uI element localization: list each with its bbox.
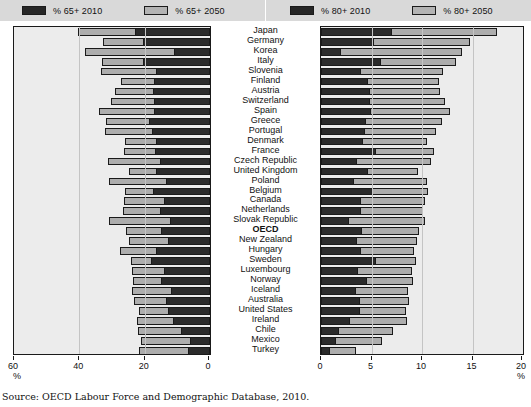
bar-segment-2050 [134, 297, 166, 305]
bar-sweden [321, 257, 416, 265]
bar-segment-2010 [156, 247, 210, 255]
bar-new-zealand [129, 237, 210, 245]
bar-segment-2050 [129, 237, 167, 245]
bar-segment-2010 [160, 207, 210, 215]
bar-segment-2050 [129, 168, 156, 176]
bar-segment-2010 [161, 227, 210, 235]
bar-segment-2010 [321, 28, 391, 36]
bar-segment-2050 [125, 188, 153, 196]
bar-luxembourg [132, 267, 210, 275]
bar-segment-2010 [321, 237, 356, 245]
bar-segment-2050 [101, 68, 156, 76]
x-axis-65plus: 6040200 [13, 356, 211, 378]
bar-united-states [321, 307, 406, 315]
bar-segment-2050 [369, 98, 445, 106]
bar-row [14, 276, 210, 286]
legend-entry-80-2050: % 80+ 2050 [412, 6, 492, 16]
axis-tick [320, 356, 321, 360]
bar-segment-2050 [367, 168, 418, 176]
bar-segment-2050 [369, 88, 440, 96]
bar-segment-2050 [125, 138, 156, 146]
bar-belgium [321, 188, 428, 196]
bar-segment-2050 [367, 78, 439, 86]
bar-segment-2010 [143, 58, 210, 66]
bar-segment-2050 [359, 307, 405, 315]
bar-belgium [125, 188, 210, 196]
bar-segment-2050 [366, 277, 412, 285]
bar-segment-2050 [132, 287, 171, 295]
axis-tick-label: 10 [416, 361, 426, 371]
bar-row [14, 157, 210, 167]
bar-segment-2050 [360, 197, 425, 205]
bar-segment-2010 [166, 178, 210, 186]
bar-segment-2050 [355, 287, 408, 295]
bar-austria [115, 88, 210, 96]
bar-france [321, 148, 434, 156]
bar-segment-2010 [164, 267, 210, 275]
bar-segment-2050 [141, 337, 189, 345]
bar-segment-2050 [340, 48, 462, 56]
gridline [422, 27, 423, 354]
bar-row [14, 286, 210, 296]
gridline [145, 27, 146, 354]
bar-united-kingdom [129, 168, 210, 176]
bar-segment-2010 [321, 78, 367, 86]
bar-sweden [131, 257, 210, 265]
bar-canada [321, 197, 425, 205]
legend-65plus: % 65+ 2010 % 65+ 2050 [0, 0, 265, 21]
axis-tick [144, 356, 145, 360]
bar-slovak-republic [109, 217, 210, 225]
bar-row [14, 296, 210, 306]
bar-segment-2010 [321, 277, 366, 285]
bar-luxembourg [321, 267, 412, 275]
bar-united-states [139, 307, 210, 315]
bar-segment-2050 [353, 178, 427, 186]
bar-row [14, 137, 210, 147]
bar-denmark [125, 138, 210, 146]
bar-segment-2010 [168, 237, 210, 245]
bar-segment-2010 [164, 197, 210, 205]
bar-row [14, 117, 210, 127]
bar-segment-2010 [321, 168, 367, 176]
legend-label-65-2010: % 65+ 2010 [53, 6, 102, 16]
bar-segment-2050 [103, 38, 143, 46]
bar-row [14, 27, 210, 37]
bar-segment-2050 [359, 297, 408, 305]
bar-segment-2050 [123, 207, 159, 215]
bar-segment-2010 [321, 297, 359, 305]
axis-tick-label: 40 [73, 361, 83, 371]
bar-iceland [321, 287, 408, 295]
bar-hungary [120, 247, 210, 255]
bar-segment-2010 [321, 68, 360, 76]
bar-row [14, 97, 210, 107]
bar-segment-2050 [335, 337, 381, 345]
x-axis-unit-65plus: % [13, 371, 21, 381]
legend-swatch-light-icon [144, 6, 168, 15]
bar-segment-2010 [135, 28, 210, 36]
bar-row [14, 167, 210, 177]
bar-switzerland [111, 98, 210, 106]
bar-segment-2010 [321, 108, 370, 116]
bar-row [14, 127, 210, 137]
bar-poland [109, 178, 210, 186]
bar-segment-2010 [190, 337, 210, 345]
bar-oecd [321, 227, 419, 235]
bar-segment-2010 [168, 307, 210, 315]
bar-segment-2010 [321, 197, 360, 205]
axis-tick-label: 0 [205, 361, 210, 371]
bar-portugal [321, 128, 436, 136]
bar-segment-2050 [364, 128, 436, 136]
bar-segment-2010 [321, 138, 362, 146]
bar-segment-2010 [156, 138, 210, 146]
bar-segment-2050 [338, 327, 393, 335]
bar-segment-2010 [154, 108, 210, 116]
bar-segment-2010 [181, 327, 210, 335]
bar-segment-2010 [321, 148, 375, 156]
bar-row [14, 256, 210, 266]
axis-tick [472, 356, 473, 360]
bar-rows-65plus [14, 27, 210, 354]
bar-segment-2010 [166, 297, 210, 305]
chart-panel-80plus: % 80+ 2010 % 80+ 2050 [266, 0, 531, 381]
bar-greece [321, 118, 442, 126]
legend-80plus: % 80+ 2010 % 80+ 2050 [266, 0, 531, 21]
